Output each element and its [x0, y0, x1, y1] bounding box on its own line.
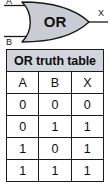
cell-a: 0 — [7, 94, 39, 116]
cell-a: 1 — [7, 160, 39, 182]
cell-a: 1 — [7, 138, 39, 160]
input-b-label: B — [6, 37, 12, 47]
column-header-a: A — [7, 72, 39, 94]
cell-b: 0 — [39, 94, 71, 116]
cell-x: 1 — [71, 160, 103, 182]
cell-b: 1 — [39, 116, 71, 138]
truth-table-title-row: OR truth table — [7, 50, 104, 72]
truth-table: OR truth table A B X 0 0 0 0 1 1 1 0 1 1… — [6, 49, 104, 182]
cell-x: 1 — [71, 138, 103, 160]
truth-table-title: OR truth table — [7, 50, 104, 72]
cell-x: 1 — [71, 116, 103, 138]
input-a-label: A — [6, 0, 12, 6]
table-row: 0 1 1 — [7, 116, 104, 138]
table-row: 1 0 1 — [7, 138, 104, 160]
table-row: 0 0 0 — [7, 94, 104, 116]
or-gate-diagram: OR A B X — [0, 0, 110, 48]
gate-type-label: OR — [44, 13, 67, 30]
truth-table-header-row: A B X — [7, 72, 104, 94]
cell-x: 0 — [71, 94, 103, 116]
table-row: 1 1 1 — [7, 160, 104, 182]
column-header-x: X — [71, 72, 103, 94]
cell-a: 0 — [7, 116, 39, 138]
output-x-label: X — [98, 8, 104, 18]
column-header-b: B — [39, 72, 71, 94]
cell-b: 1 — [39, 160, 71, 182]
cell-b: 0 — [39, 138, 71, 160]
